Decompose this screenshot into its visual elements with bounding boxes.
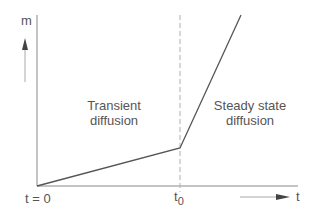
transient-region-label: Transient diffusion — [70, 98, 158, 128]
transient-line2: diffusion — [70, 113, 158, 128]
t0-label: t0 — [174, 189, 184, 205]
y-axis-label: m — [21, 13, 32, 28]
x-axis-label: t — [296, 189, 300, 204]
t-arrow-right-icon — [276, 194, 290, 200]
steady-state-region-label: Steady state diffusion — [200, 98, 300, 128]
transient-line1: Transient — [70, 98, 158, 113]
steady-line2: diffusion — [200, 113, 300, 128]
t0-label-sub: 0 — [178, 195, 184, 207]
steady-line1: Steady state — [200, 98, 300, 113]
origin-label: t = 0 — [25, 191, 51, 206]
m-arrow-up-icon — [22, 38, 28, 50]
